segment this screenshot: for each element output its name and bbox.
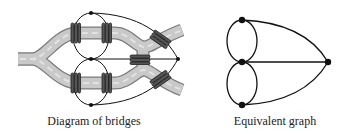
node-middle (239, 59, 245, 65)
overlay-node-middle (89, 57, 93, 61)
edge-top-right (242, 20, 328, 62)
edge-bottom-right (242, 62, 328, 105)
node-right (325, 59, 331, 65)
node-top (239, 17, 245, 23)
bridge-5 (130, 55, 150, 65)
bridge-2 (102, 23, 112, 43)
edge-middle-bottom-loop (227, 62, 257, 105)
overlay-node-right (176, 57, 180, 61)
bridge-3 (71, 73, 81, 93)
equivalent-graph (227, 17, 331, 108)
bridge-4 (102, 73, 112, 93)
overlay-node-top (89, 11, 93, 15)
river-diagram (18, 11, 182, 107)
bridge-1 (71, 23, 81, 43)
overlay-node-bottom (89, 103, 93, 107)
node-bottom (239, 102, 245, 108)
caption-equivalent-graph: Equivalent graph (234, 114, 316, 129)
edge-top-middle-loop (227, 20, 257, 62)
caption-diagram-of-bridges: Diagram of bridges (47, 114, 140, 129)
